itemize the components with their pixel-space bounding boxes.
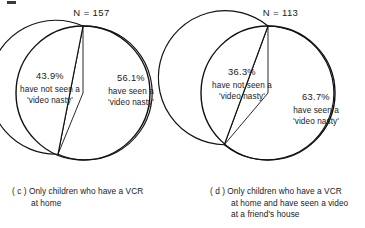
pie-panel-d: N = 113 36.3% have not seen a 'video nas… [182,0,365,228]
pie-label-d-not-seen: 36.3% have not seen a 'video nasty' [200,66,284,102]
pie-caption-d-line2: at home and have seen a video [210,198,348,210]
pie-label-d-seen-pct: 63.7% [274,91,358,104]
pie-panel-c: N = 157 43.9% have not seen a 'video nas… [0,0,183,228]
pie-label-d-not-seen-line1: have not seen a [212,81,272,90]
pie-label-c-not-seen-line1: have not seen a [20,85,80,94]
pie-label-d-not-seen-line2: 'video nasty' [219,92,265,101]
pie-label-d-not-seen-pct: 36.3% [200,66,284,79]
pie-caption-d-line3: at a friend's house [210,209,348,221]
pie-label-c-not-seen: 43.9% have not seen a 'video nasty' [6,70,94,106]
pie-label-c-not-seen-line2: 'video nasty' [27,96,73,105]
pie-caption-d: ( d ) Only children who have a VCR at ho… [210,186,348,221]
pie-caption-d-line1: ( d ) Only children who have a VCR [210,186,348,198]
pie-caption-c-line1: ( c ) Only children who have a VCR [12,186,143,198]
pie-label-c-not-seen-pct: 43.9% [6,70,94,83]
pie-label-d-seen-line2: 'video nasty' [293,117,339,126]
figure-pie-charts: N = 157 43.9% have not seen a 'video nas… [0,0,365,228]
pie-label-c-seen-line2: 'video nasty' [108,98,154,107]
pie-label-c-seen-line1: have seen a [108,87,154,96]
pie-label-d-seen: 63.7% have seen a 'video nasty' [274,91,358,127]
pie-label-d-seen-line1: have seen a [293,106,339,115]
pie-caption-c-line2: at home [12,198,143,210]
pie-caption-c: ( c ) Only children who have a VCR at ho… [12,186,143,209]
